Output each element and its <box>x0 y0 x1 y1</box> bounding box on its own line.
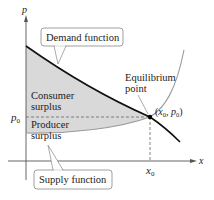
equilibrium-label-line1: Equilibrium <box>125 72 176 83</box>
x0-label: x0 <box>145 164 155 178</box>
demand-function-callout: Demand function <box>41 28 123 64</box>
x-axis-label: x <box>198 155 204 166</box>
consumer-surplus-label-line1: Consumer <box>31 90 75 101</box>
consumer-surplus-label-line2: surplus <box>31 101 61 112</box>
x-axis-arrow-icon <box>190 159 197 163</box>
equilibrium-point-marker <box>148 115 152 119</box>
equilibrium-coordinates: (x0, p0) <box>155 106 183 118</box>
p0-label: p0 <box>10 111 21 125</box>
supply-demand-diagram: p x p0 x0 Consumer surplus Producer surp… <box>0 0 214 200</box>
supply-function-label: Supply function <box>39 174 107 185</box>
y-axis-label: p <box>21 4 27 15</box>
equilibrium-label-line2: point <box>125 83 147 94</box>
equilibrium-pointer-line <box>138 95 148 114</box>
y-axis-arrow-icon <box>24 15 28 22</box>
producer-surplus-label-line2: surplus <box>31 130 61 141</box>
supply-function-callout: Supply function <box>34 145 112 189</box>
demand-function-label: Demand function <box>46 32 120 43</box>
producer-surplus-label-line1: Producer <box>31 119 69 130</box>
